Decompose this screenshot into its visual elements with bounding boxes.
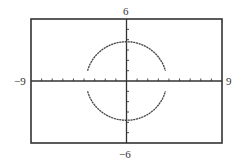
- plot-area: [0, 0, 239, 166]
- ymin-label: −6: [119, 149, 131, 160]
- xmin-label: −9: [14, 76, 26, 87]
- ymax-label: 6: [123, 6, 129, 17]
- xmax-label: 9: [226, 76, 232, 87]
